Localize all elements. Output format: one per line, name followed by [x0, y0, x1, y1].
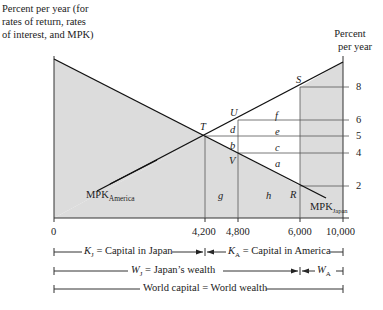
area-c-label: c	[275, 142, 280, 154]
left-axis-title-line2: rates of return, rates	[2, 16, 86, 28]
mpk-japan-label: MPKJapan	[310, 201, 348, 217]
ytick-2: 2	[356, 180, 361, 192]
xtick-4800: 4,800	[226, 226, 250, 238]
ytick-5: 5	[356, 130, 361, 142]
wa-symbol: W	[317, 264, 326, 275]
point-T-label: T	[200, 121, 206, 133]
bracket-wa-label: WA	[317, 264, 331, 280]
point-V-label: V	[229, 155, 235, 167]
ka-text: = Capital in America	[240, 245, 330, 256]
wj-symbol: W	[131, 264, 140, 275]
xtick-6000: 6,000	[288, 226, 312, 238]
xtick-4200: 4,200	[192, 226, 216, 238]
ka-symbol: K	[228, 245, 235, 256]
arrow-right-icon	[291, 269, 298, 274]
bracket-ka-label: KA = Capital in America	[228, 245, 331, 261]
mpk-america-sub: America	[109, 194, 135, 203]
wa-sub: A	[326, 270, 331, 278]
mpk-japan-text: MPK	[310, 201, 333, 212]
area-d-label: d	[230, 124, 235, 136]
wj-text: = Japan’s wealth	[142, 264, 215, 275]
area-f-label: f	[275, 110, 278, 122]
left-axis-title-line3: of interest, and MPK)	[2, 29, 94, 41]
kj-symbol: K	[84, 245, 91, 256]
left-axis-title-line1: Percent per year (for	[2, 3, 89, 15]
ytick-8: 8	[356, 81, 361, 93]
right-axis-title-line2: per year	[338, 41, 372, 53]
area-g-label: g	[218, 190, 223, 202]
bracket-wj-label: WJ = Japan’s wealth	[131, 264, 215, 280]
mpk-america-text: MPK	[86, 189, 109, 200]
point-R-label: R	[290, 189, 296, 201]
area-h-label: h	[266, 190, 271, 202]
point-U-label: U	[230, 107, 238, 119]
xtick-0: 0	[51, 226, 56, 238]
ytick-4: 4	[356, 147, 361, 159]
area-e-label: e	[275, 126, 280, 138]
bracket-kj-label: KJ = Capital in Japan	[84, 245, 173, 261]
kj-text: = Capital in Japan	[94, 245, 173, 256]
point-S-label: S	[296, 74, 301, 86]
area-a-label: a	[275, 158, 280, 170]
ytick-6: 6	[356, 114, 361, 126]
mpk-america-label: MPKAmerica	[86, 189, 135, 205]
bracket-world-label: World capital = World wealth	[143, 282, 267, 294]
right-axis-title-line1: Percent	[330, 28, 370, 40]
shaded-area-right	[300, 62, 343, 218]
xtick-10000: 10,000	[326, 226, 355, 238]
area-b-label: b	[230, 140, 235, 152]
arrow-right-icon	[196, 250, 203, 255]
mpk-japan-sub: Japan	[333, 207, 348, 214]
